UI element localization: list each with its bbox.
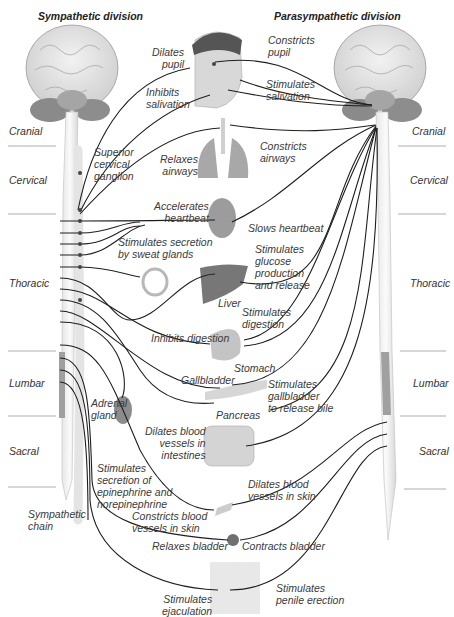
skin-vessel-illustration [215,502,233,516]
left-region-sacral: Sacral [9,445,39,457]
right-spinal-cord [376,112,396,540]
effect-stimulates-salivation: Stimulates salivation [266,78,315,102]
label-liver: Liver [218,297,241,309]
right-region-cranial: Cranial [412,125,445,137]
effect-accelerates-heartbeat: Accelerates heartbeat [154,200,209,224]
effect-contracts-bladder: Contracts bladder [242,540,325,552]
heart-illustration [208,198,236,238]
left-region-lumbar: Lumbar [9,377,45,389]
left-brain [26,25,118,122]
left-lumbar-band [59,352,65,418]
effect-dilates-pupil: Dilates pupil [152,46,184,70]
right-brain [334,25,426,122]
parasympathetic-division-title: Parasympathetic division [274,10,401,22]
label-sympathetic-chain: Sympathetic chain [28,508,86,532]
genital-illustration [210,562,260,614]
effect-constricts-pupil: Constricts pupil [268,34,315,58]
effect-slows-heartbeat: Slows heartbeat [248,222,323,234]
effect-penile-erection: Stimulates penile erection [276,582,344,606]
bladder-illustration [227,534,239,546]
label-gallbladder: Gallbladder [181,374,235,386]
effect-epinephrine-secretion: Stimulates secretion of epinephrine and … [97,462,172,510]
right-region-sacral: Sacral [419,445,449,457]
left-region-cervical: Cervical [9,174,47,186]
effect-relaxes-airways: Relaxes airways [160,153,198,177]
effect-glucose-release: Stimulates glucose production and releas… [255,243,310,291]
label-stomach: Stomach [234,362,275,374]
sweat-gland-illustration [143,269,167,295]
effect-gallbladder-bile: Stimulates gallbladder to release bile [268,378,333,414]
label-pancreas: Pancreas [216,409,260,421]
effect-dilates-skin-vessels: Dilates blood vessels in skin [248,478,316,502]
effect-dilates-intestine-vessels: Dilates blood vessels in intestines [145,425,206,461]
right-region-thoracic: Thoracic [410,277,450,289]
effect-inhibits-salivation: Inhibits salivation [146,86,190,110]
right-region-lumbar: Lumbar [413,377,449,389]
label-superior-cervical-ganglion: Superior cervical ganglion [94,146,134,182]
effect-inhibits-digestion: Inhibits digestion [151,332,229,344]
label-adrenal-gland: Adrenal gland [91,397,127,421]
head-illustration [192,32,242,108]
effect-relaxes-bladder: Relaxes bladder [152,540,228,552]
effect-sweat-secretion: Stimulates secretion by sweat glands [118,236,213,260]
sympathetic-division-title: Sympathetic division [38,10,143,22]
effect-stimulates-ejaculation: Stimulates ejaculation [162,593,212,617]
effect-stimulates-digestion: Stimulates digestion [242,306,291,330]
para-fiber-airways [230,125,375,131]
left-region-thoracic: Thoracic [9,277,49,289]
right-region-cervical: Cervical [410,174,448,186]
left-region-cranial: Cranial [9,125,42,137]
effect-constricts-skin-vessels: Constricts blood vessels in skin [132,510,207,534]
lungs-illustration [198,118,248,178]
effect-constricts-airways: Constricts airways [260,140,307,164]
